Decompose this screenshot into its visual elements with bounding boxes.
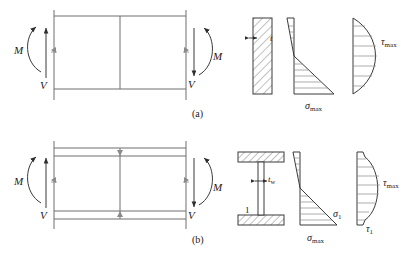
- flange-web-junction-marker-top: [117, 150, 123, 156]
- point-1-label: 1: [245, 205, 250, 215]
- panel-a: M V M V t: [13, 10, 397, 120]
- sigma-1-label-b: σ1: [333, 208, 342, 221]
- beam-elevation-ibeam: [51, 141, 189, 229]
- moment-label-left-b: M: [13, 175, 24, 187]
- moment-label-right-a: M: [212, 50, 223, 62]
- shear-stress-diagram-b: τmax τ1: [357, 152, 399, 236]
- engineering-figure: M V M V t: [0, 0, 414, 254]
- shear-label-left-b: V: [40, 209, 48, 221]
- beam-elevation-rectangular: [51, 10, 189, 100]
- bending-stress-diagram-a: σmax: [287, 18, 334, 113]
- caption-a: (a): [192, 108, 203, 120]
- caption-b: (b): [192, 234, 204, 246]
- moment-label-left-a: M: [13, 44, 24, 56]
- panel-b: M V M V tw 1: [13, 141, 399, 246]
- tau-max-label-a: τmax: [381, 36, 397, 49]
- web-thickness-label: tw: [268, 174, 276, 185]
- tau-1-label-b: τ1: [366, 223, 374, 236]
- flange-web-junction-marker-bottom: [117, 211, 123, 217]
- left-end-loads-a: M V: [13, 27, 48, 91]
- right-end-loads-b: M V: [188, 158, 223, 221]
- bottom-flange: [238, 215, 284, 225]
- right-end-loads-a: M V: [188, 28, 223, 90]
- left-end-loads-b: M V: [13, 157, 48, 221]
- moment-label-right-b: M: [212, 181, 223, 193]
- shear-label-left-a: V: [40, 79, 48, 91]
- sigma-max-label-b: σmax: [307, 232, 324, 245]
- thickness-label-a: t: [270, 33, 273, 43]
- sigma-max-label-a: σmax: [305, 100, 322, 113]
- bending-stress-diagram-b: σ1 σmax: [293, 152, 342, 245]
- shear-label-right-a: V: [188, 78, 196, 90]
- shear-stress-diagram-a: τmax: [353, 18, 397, 94]
- rectangular-cross-section: t: [249, 18, 273, 94]
- shear-label-right-b: V: [188, 209, 196, 221]
- web: [258, 162, 264, 215]
- i-cross-section: tw 1: [238, 152, 284, 225]
- top-flange: [238, 152, 284, 162]
- figure-root: M V M V t: [0, 0, 414, 254]
- tau-max-label-b: τmax: [383, 177, 399, 190]
